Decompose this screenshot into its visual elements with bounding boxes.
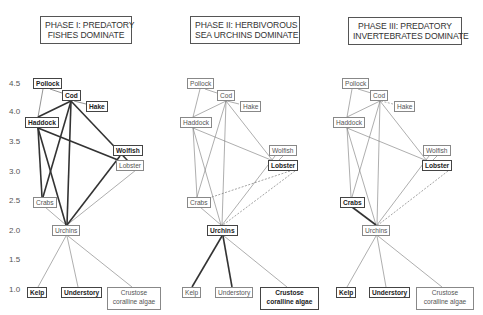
node-urchins[interactable]: Urchins <box>362 225 390 236</box>
node-cod[interactable]: Cod <box>370 90 388 101</box>
node-pollock[interactable]: Pollock <box>33 78 62 89</box>
node-understory[interactable]: Understory <box>215 287 253 298</box>
node-crustose-coralline-algae[interactable]: Crustose coralline algae <box>107 287 161 310</box>
node-wolfish[interactable]: Wolfish <box>113 145 143 156</box>
node-hake[interactable]: Hake <box>86 101 108 112</box>
node-cod[interactable]: Cod <box>62 90 81 101</box>
node-pollock[interactable]: Pollock <box>342 78 369 89</box>
node-haddock[interactable]: Haddock <box>25 117 59 128</box>
node-crustose-coralline-algae[interactable]: Crustose coralline algae <box>416 287 474 310</box>
node-lobster[interactable]: Lobster <box>116 160 144 171</box>
node-kelp[interactable]: Kelp <box>182 287 201 298</box>
node-urchins[interactable]: Urchins <box>52 225 80 236</box>
node-haddock[interactable]: Haddock <box>180 117 212 128</box>
node-lobster[interactable]: Lobster <box>422 160 452 171</box>
node-understory[interactable]: Understory <box>369 287 410 298</box>
node-crabs[interactable]: Crabs <box>187 197 211 208</box>
node-crabs[interactable]: Crabs <box>340 197 365 208</box>
node-wolfish[interactable]: Wolfish <box>423 145 451 156</box>
node-kelp[interactable]: Kelp <box>27 287 47 298</box>
node-wolfish[interactable]: Wolfish <box>269 145 297 156</box>
node-cod[interactable]: Cod <box>217 90 235 101</box>
node-haddock[interactable]: Haddock <box>333 117 365 128</box>
node-hake[interactable]: Hake <box>394 101 415 112</box>
node-urchins[interactable]: Urchins <box>207 225 238 236</box>
node-crabs[interactable]: Crabs <box>33 197 57 208</box>
node-crustose-coralline-algae[interactable]: Crustose coralline algae <box>260 287 319 310</box>
node-pollock[interactable]: Pollock <box>187 78 214 89</box>
food-web-edges <box>0 0 483 315</box>
node-lobster[interactable]: Lobster <box>268 160 298 171</box>
node-understory[interactable]: Understory <box>61 287 102 298</box>
node-kelp[interactable]: Kelp <box>336 287 356 298</box>
node-hake[interactable]: Hake <box>240 101 261 112</box>
